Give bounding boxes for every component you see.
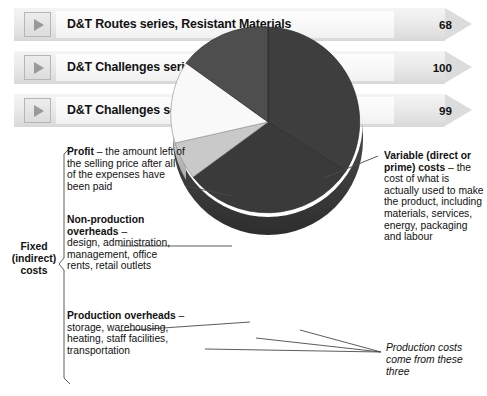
leader-line-note-3 xyxy=(205,349,381,352)
leader-line-note-2 xyxy=(256,338,381,352)
callout-variable-text: the cost of what is actually used to mak… xyxy=(384,162,484,243)
callout-profit: Profit – the amount left of the selling … xyxy=(67,146,185,192)
fixed-costs-line-2: (indirect) xyxy=(8,253,60,265)
callout-production-term: Production overheads xyxy=(67,310,176,321)
fixed-costs-line-3: costs xyxy=(8,265,60,277)
callout-production-text: storage, warehousing, heating, staff fac… xyxy=(67,322,168,356)
fixed-costs-line-1: Fixed xyxy=(8,241,60,253)
fixed-costs-label: Fixed (indirect) costs xyxy=(8,241,60,276)
callout-profit-term: Profit xyxy=(67,146,94,157)
callout-production-dash: – xyxy=(176,310,185,321)
callout-non-production-text: design, administration, management, offi… xyxy=(67,237,170,271)
callout-variable-costs: Variable (direct or prime) costs – the c… xyxy=(384,150,485,243)
callout-non-production-overheads: Non-production overheads – design, admin… xyxy=(67,214,171,272)
callout-profit-dash: – xyxy=(94,146,105,157)
leader-line-note-1 xyxy=(300,330,381,352)
callout-non-production-term: Non-production overheads xyxy=(67,214,144,237)
callout-variable-dash: – xyxy=(445,162,456,173)
callout-non-production-dash: – xyxy=(119,226,128,237)
callout-note-text: Production costs come from these three xyxy=(386,342,463,377)
callout-production-overheads: Production overheads – storage, warehous… xyxy=(67,310,195,356)
callout-production-costs-note: Production costs come from these three xyxy=(386,342,484,377)
